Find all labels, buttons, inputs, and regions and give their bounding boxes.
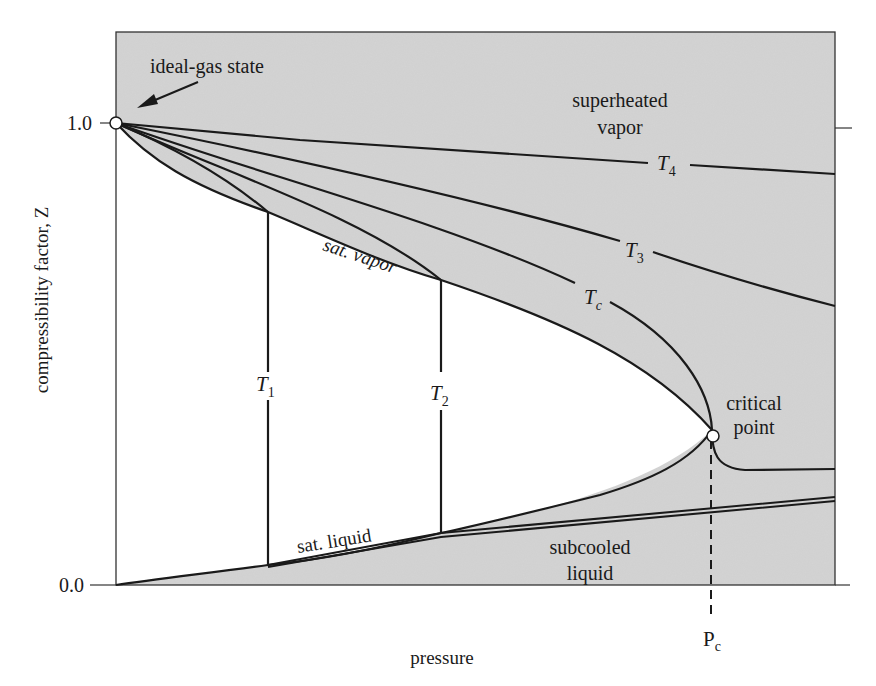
compressibility-chart: ideal-gas state superheated vapor T4 T3 … (0, 0, 876, 686)
vapor-label: vapor (597, 116, 643, 139)
superheated-label: superheated (572, 89, 668, 112)
ytick-label-1: 1.0 (67, 112, 92, 134)
x-axis-label: pressure (410, 647, 473, 668)
pc-tick-label: Pc (703, 627, 721, 654)
point-label: point (733, 416, 775, 439)
ideal-gas-point (110, 117, 122, 129)
liquid-label: liquid (567, 562, 614, 585)
y-axis-label: compressibility factor, Z (31, 207, 52, 394)
critical-point-marker (707, 430, 719, 442)
critical-label: critical (726, 392, 782, 414)
ytick-label-0: 0.0 (59, 574, 84, 596)
subcooled-label: subcooled (549, 536, 630, 558)
ideal-gas-label: ideal-gas state (150, 55, 264, 78)
